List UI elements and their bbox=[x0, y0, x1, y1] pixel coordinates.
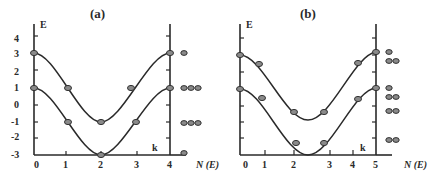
svg-text:-3: -3 bbox=[11, 149, 19, 160]
svg-text:1: 1 bbox=[262, 159, 267, 170]
svg-text:0: 0 bbox=[34, 159, 39, 170]
svg-text:2: 2 bbox=[291, 159, 296, 170]
panel-a-y-axis-label: E bbox=[40, 19, 47, 30]
svg-text:3: 3 bbox=[327, 159, 332, 170]
svg-text:2: 2 bbox=[98, 159, 103, 170]
svg-text:3: 3 bbox=[134, 159, 139, 170]
panel-b-x-axis-label: k bbox=[360, 142, 366, 153]
panel-a-y-tick-labels: 4 3 2 1 0 -1 -2 -3 bbox=[11, 33, 19, 160]
panel-b-title: (b) bbox=[300, 6, 316, 21]
svg-text:-2: -2 bbox=[11, 131, 19, 142]
panel-b: (b) E 0 1 2 3 4 5 k N (E) bbox=[237, 6, 428, 171]
panel-a-density-of-states bbox=[181, 51, 201, 156]
panel-b-data-points bbox=[237, 49, 380, 145]
panel-a: (a) E 4 3 2 1 0 -1 -2 -3 bbox=[11, 6, 219, 171]
panel-b-y-axis-label: E bbox=[246, 19, 253, 30]
svg-text:0: 0 bbox=[14, 99, 19, 110]
panel-a-dos-label: N (E) bbox=[195, 159, 219, 171]
svg-text:0: 0 bbox=[243, 159, 248, 170]
svg-text:1: 1 bbox=[63, 159, 68, 170]
svg-text:-1: -1 bbox=[11, 116, 19, 127]
svg-text:5: 5 bbox=[373, 159, 378, 170]
panel-b-dos-label: N (E) bbox=[403, 159, 427, 171]
svg-text:3: 3 bbox=[14, 48, 19, 59]
panel-a-upper-band bbox=[34, 53, 170, 122]
panel-a-x-axis-label: k bbox=[152, 142, 158, 153]
band-structure-figure: (a) E 4 3 2 1 0 -1 -2 -3 bbox=[0, 0, 438, 177]
panel-a-y-tick-marks bbox=[34, 36, 170, 155]
svg-text:4: 4 bbox=[350, 159, 355, 170]
panel-b-x-tick-labels: 0 1 2 3 4 5 bbox=[243, 159, 378, 170]
panel-a-title: (a) bbox=[90, 6, 105, 21]
svg-text:2: 2 bbox=[14, 66, 19, 77]
svg-text:1: 1 bbox=[14, 82, 19, 93]
svg-text:4: 4 bbox=[14, 33, 19, 44]
svg-text:4: 4 bbox=[167, 159, 172, 170]
panel-a-x-tick-labels: 0 1 2 3 4 bbox=[34, 159, 172, 170]
panel-b-density-of-states bbox=[386, 50, 399, 143]
